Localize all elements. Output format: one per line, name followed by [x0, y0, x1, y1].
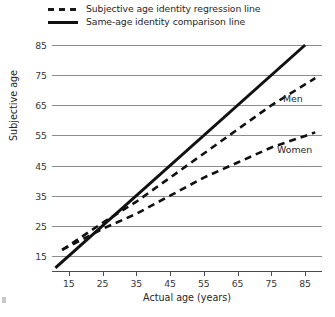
series-annotation-men: Men [283, 94, 303, 104]
series-lines [0, 0, 335, 317]
series-line-men [62, 78, 315, 250]
y-axis-title: Subjective age [8, 41, 19, 171]
chart-figure: Subjective age identity regression line … [0, 0, 335, 317]
series-annotation-women: Women [277, 145, 312, 155]
x-axis-title: Actual age (years) [52, 292, 322, 303]
series-line-same-age-identity-comparison-line [55, 45, 305, 268]
scan-artifact [2, 297, 6, 303]
